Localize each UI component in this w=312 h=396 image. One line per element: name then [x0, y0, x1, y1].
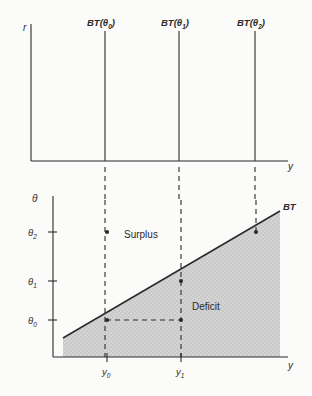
bt-theta2-label-suffix: ): [261, 17, 265, 28]
deficit-region-label: Deficit: [192, 301, 220, 312]
bottom-panel: θ y θ0 θ1 θ2 y0 y1: [28, 193, 297, 379]
tick-label-theta0-sub: 0: [33, 321, 37, 328]
tick-label-theta0: θ0: [28, 315, 37, 328]
surplus-region-label: Surplus: [124, 229, 158, 240]
bottom-panel-y-axis-label: θ: [32, 193, 38, 204]
inter-panel-connectors: [105, 167, 255, 200]
top-panel-y-axis-label: r: [23, 22, 27, 33]
svg-text:BT(θ2): BT(θ2): [237, 17, 265, 30]
tick-label-theta2-sub: 2: [32, 233, 37, 240]
point-y0-theta0: [105, 318, 109, 322]
bt-theta1-label-suffix: ): [185, 17, 189, 28]
tick-label-y1: y1: [175, 366, 185, 379]
tick-label-y0: y0: [101, 366, 111, 379]
tick-label-theta1-sub: 1: [33, 282, 37, 289]
point-y1-theta0: [179, 318, 183, 322]
svg-text:BT(θ0): BT(θ0): [87, 17, 115, 30]
bt-theta0-label: BT(θ0): [87, 17, 115, 30]
figure-container: r y BT(θ0) BT(θ1) BT(θ2): [0, 0, 312, 396]
svg-text:BT(θ1): BT(θ1): [161, 17, 189, 30]
tick-label-theta2: θ2: [28, 227, 37, 240]
bt-theta1-label: BT(θ1): [161, 17, 189, 30]
bottom-panel-x-axis-label: y: [287, 360, 294, 371]
point-y1-theta1: [179, 279, 183, 283]
tick-label-y0-sub: 0: [107, 372, 111, 379]
bt-curve-label: BT: [283, 201, 297, 212]
point-y0-theta2: [105, 230, 109, 234]
tick-label-theta1: θ1: [28, 276, 37, 289]
deficit-shaded-region: [63, 211, 280, 357]
bt-theta0-label-suffix: ): [111, 17, 115, 28]
top-panel: r y BT(θ0) BT(θ1) BT(θ2): [23, 17, 294, 172]
top-panel-x-axis-label: y: [287, 161, 294, 172]
tick-label-y1-sub: 1: [181, 372, 185, 379]
bt-theta2-label: BT(θ2): [237, 17, 265, 30]
point-y2-theta2: [254, 230, 258, 234]
